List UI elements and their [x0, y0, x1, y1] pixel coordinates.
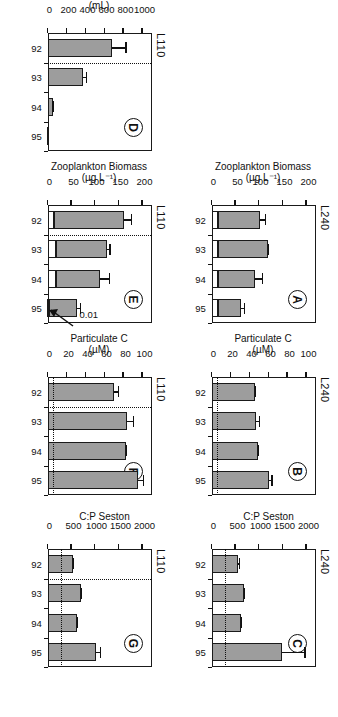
- y-tick-d-800: [122, 28, 123, 33]
- panel-letter-d: D: [124, 118, 143, 137]
- x-tick-label-d-92: 92: [30, 42, 44, 53]
- x-tick-d-93: [44, 92, 48, 93]
- y-tick-d-0: [47, 28, 48, 33]
- error-cap-d-93: [86, 72, 87, 83]
- lake-label-d: L110: [155, 33, 167, 57]
- x-tick-d-94: [44, 122, 48, 123]
- panel-d: L110D9293949502004006008001000CPUE(mL): [0, 0, 338, 717]
- y-tick-d-400: [85, 28, 86, 33]
- x-tick-label-d-94: 94: [30, 101, 44, 112]
- error-cap-d-92: [125, 42, 126, 53]
- x-tick-label-d-95: 95: [30, 131, 44, 142]
- y-tick-d-600: [104, 28, 105, 33]
- axis-unit-d: (mL): [24, 0, 174, 11]
- bar-d-93[interactable]: [48, 68, 83, 86]
- panel-grid: L240A92939495050100150200Zooplankton Bio…: [0, 0, 338, 717]
- axis-title-d: CPUE(mL): [24, 0, 174, 11]
- y-tick-d-1000: [141, 28, 142, 33]
- error-cap-d-94: [52, 101, 53, 112]
- figure-root: L240A92939495050100150200Zooplankton Bio…: [0, 0, 338, 717]
- separator-line-d: [48, 63, 152, 64]
- y-tick-d-200: [66, 28, 67, 33]
- x-tick-label-d-93: 93: [30, 72, 44, 83]
- x-tick-d-95: [44, 151, 48, 152]
- bar-d-95[interactable]: [47, 127, 49, 145]
- bar-d-92[interactable]: [48, 39, 112, 57]
